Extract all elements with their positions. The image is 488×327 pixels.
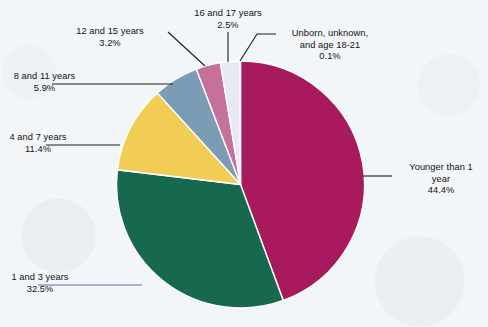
label-one-and-three-line1: 1 and 3 years	[12, 272, 69, 282]
label-sixteen-and-seventeen-percent: 2.5%	[173, 20, 283, 32]
label-four-and-seven-line1: 4 and 7 years	[10, 132, 67, 142]
label-four-and-seven-percent: 11.4%	[0, 144, 88, 156]
label-unborn-unknown-percent: 0.1%	[268, 51, 392, 63]
label-unborn-unknown-line2: and age 18-21	[300, 40, 361, 50]
pie-slices	[116, 61, 364, 308]
label-younger-than-1: Younger than 1 year 44.4%	[396, 162, 486, 197]
label-younger-than-1-line2: year	[432, 174, 450, 184]
label-sixteen-and-seventeen-line1: 16 and 17 years	[194, 8, 261, 18]
label-younger-than-1-percent: 44.4%	[396, 185, 486, 197]
label-eight-and-eleven-line1: 8 and 11 years	[14, 71, 76, 81]
label-sixteen-and-seventeen: 16 and 17 years 2.5%	[173, 8, 283, 31]
label-eight-and-eleven: 8 and 11 years 5.9%	[0, 71, 97, 94]
label-unborn-unknown: Unborn, unknown, and age 18-21 0.1%	[268, 28, 392, 63]
pie-chart-figure: Younger than 1 year 44.4% 1 and 3 years …	[0, 0, 488, 327]
label-one-and-three-percent: 32.5%	[0, 284, 88, 296]
label-unborn-unknown-line1: Unborn, unknown,	[292, 28, 368, 38]
label-twelve-and-fifteen-percent: 3.2%	[55, 38, 165, 50]
pie-slice-unborn-unknown[interactable]	[240, 61, 241, 185]
label-eight-and-eleven-percent: 5.9%	[0, 83, 97, 95]
label-one-and-three: 1 and 3 years 32.5%	[0, 272, 88, 295]
label-four-and-seven: 4 and 7 years 11.4%	[0, 132, 88, 155]
label-twelve-and-fifteen-line1: 12 and 15 years	[76, 26, 143, 36]
label-younger-than-1-line1: Younger than 1	[409, 162, 472, 172]
leader-line-twelve-and-fifteen	[168, 32, 205, 66]
label-twelve-and-fifteen: 12 and 15 years 3.2%	[55, 26, 165, 49]
